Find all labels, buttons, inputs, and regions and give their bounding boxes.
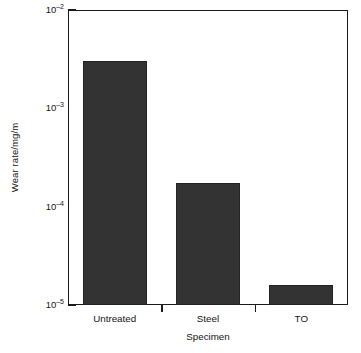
bar-steel — [176, 183, 240, 305]
bar-untreated — [83, 61, 147, 305]
y-tick-mantissa-1e-2: 10 — [46, 4, 57, 15]
x-axis-title: Specimen — [68, 331, 348, 342]
y-tick-mantissa-1e-3: 10 — [46, 102, 57, 113]
y-tick-label-1e-5: 10–5 — [22, 299, 64, 310]
y-tick-label-1e-4: 10–4 — [22, 201, 64, 212]
y-tick-label-group: 10–2 10–3 10–4 10–5 — [18, 0, 64, 353]
wear-rate-bar-chart: Wear rate/mg/m 10–2 10–3 10–4 10–5 Untre… — [0, 0, 361, 353]
y-tick-exponent-1e-2: –2 — [56, 3, 64, 10]
y-tick-exponent-1e-5: –5 — [56, 298, 64, 305]
x-tick-label-to: TO — [241, 313, 361, 324]
y-tick-mantissa-1e-5: 10 — [46, 299, 57, 310]
y-tick-label-1e-3: 10–3 — [22, 102, 64, 113]
y-tick-mantissa-1e-4: 10 — [46, 201, 57, 212]
y-tick-exponent-1e-4: –4 — [56, 200, 64, 207]
y-tick-exponent-1e-3: –3 — [56, 101, 64, 108]
bar-to — [269, 285, 333, 305]
y-tick-label-1e-2: 10–2 — [22, 4, 64, 15]
x-major-tick — [161, 305, 162, 312]
bars-layer — [68, 10, 348, 305]
x-major-tick — [255, 305, 256, 312]
